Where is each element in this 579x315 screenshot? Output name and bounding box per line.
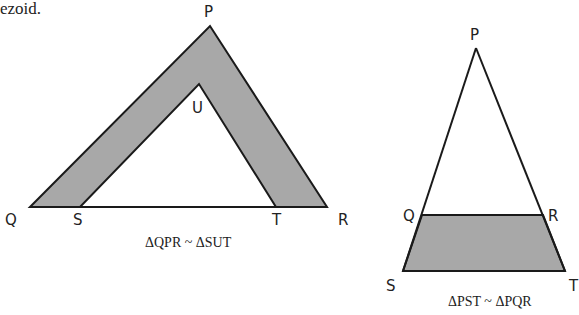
diagram-canvas: ezoid. P U Q S T R ΔQPR ~ ΔSUT P Q R S T… (0, 0, 579, 315)
label-p-left: P (204, 3, 213, 21)
label-t-left: T (271, 211, 282, 229)
label-s-right: S (386, 277, 396, 295)
caption-right: ΔPST ~ ΔPQR (448, 294, 532, 309)
caption-left: ΔQPR ~ ΔSUT (145, 235, 232, 250)
label-u: U (192, 99, 203, 117)
figure-right: P Q R S T ΔPST ~ ΔPQR (386, 26, 579, 309)
label-s-left: S (73, 211, 83, 229)
label-q-right: Q (403, 207, 415, 225)
label-q-left: Q (5, 211, 17, 229)
shaded-trapezoid (403, 215, 565, 271)
header-fragment: ezoid. (0, 0, 41, 18)
label-r-right: R (548, 207, 558, 225)
figure-left: P U Q S T R ΔQPR ~ ΔSUT (5, 3, 348, 250)
label-p-right: P (470, 26, 479, 44)
label-t-right: T (568, 277, 579, 295)
label-r-left: R (338, 211, 348, 229)
shaded-region-left (30, 26, 327, 207)
